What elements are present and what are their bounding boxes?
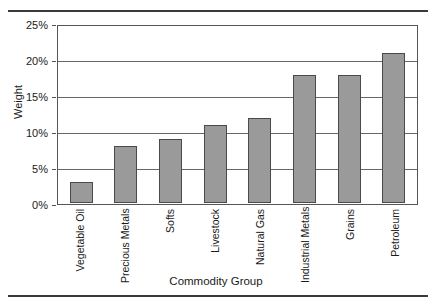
bar[interactable] <box>338 75 361 203</box>
x-tick-slot: Petroleum <box>372 207 417 283</box>
x-axis-tick-label-text: Vegetable Oil <box>75 209 86 283</box>
x-axis-tick-label-text: Grains <box>345 209 356 283</box>
bar[interactable] <box>70 182 93 203</box>
x-tick-slot: Industrial Metals <box>282 207 327 283</box>
bar-slot <box>59 27 104 203</box>
bar-slot <box>371 27 416 203</box>
y-axis-tick-label: 10% <box>26 128 48 139</box>
x-axis-tick-label-text: Softs <box>165 209 176 283</box>
bar-slot <box>148 27 193 203</box>
y-axis-tick-label: 0% <box>32 200 48 211</box>
top-horizontal-rule <box>8 10 428 12</box>
x-tick-slot: Natural Gas <box>238 207 283 283</box>
bar-series <box>59 27 416 203</box>
plot-area <box>57 25 418 205</box>
x-tick-slot: Vegetable Oil <box>58 207 103 283</box>
bar[interactable] <box>159 139 182 203</box>
y-axis-tick-label: 5% <box>32 164 48 175</box>
bar-slot <box>327 27 372 203</box>
bar-slot <box>238 27 283 203</box>
bar[interactable] <box>204 125 227 203</box>
bar[interactable] <box>293 75 316 203</box>
y-axis-tick-mark <box>52 61 56 62</box>
bottom-horizontal-rule <box>8 295 428 297</box>
y-axis-tick-label: 25% <box>26 20 48 31</box>
bar-slot <box>104 27 149 203</box>
x-axis-tick-label-text: Livestock <box>210 209 221 283</box>
x-axis-tick-label-text: Industrial Metals <box>300 209 311 283</box>
y-axis-tick-label: 15% <box>26 92 48 103</box>
x-axis-title-text: Commodity Group <box>169 275 262 287</box>
y-axis-tick-labels: 0%5%10%15%20%25% <box>14 25 52 205</box>
bar[interactable] <box>248 118 271 203</box>
x-axis-tick-label-text: Precious Metals <box>120 209 131 283</box>
y-axis-tick-label: 20% <box>26 56 48 67</box>
x-axis-tick-labels: Vegetable OilPrecious MetalsSoftsLivesto… <box>58 207 417 283</box>
x-tick-slot: Livestock <box>193 207 238 283</box>
y-axis-tick-mark <box>52 25 56 26</box>
bar[interactable] <box>382 53 405 203</box>
y-axis-tick-mark <box>52 133 56 134</box>
x-axis-title: Commodity Group <box>0 275 434 287</box>
x-tick-slot: Softs <box>148 207 193 283</box>
bar-chart-figure: Weight 0%5%10%15%20%25% Vegetable OilPre… <box>0 0 434 306</box>
x-tick-slot: Grains <box>327 207 372 283</box>
bar-slot <box>193 27 238 203</box>
bar-slot <box>282 27 327 203</box>
y-axis-tick-mark <box>52 169 56 170</box>
y-axis-tick-mark <box>52 97 56 98</box>
x-tick-slot: Precious Metals <box>103 207 148 283</box>
bar[interactable] <box>114 146 137 203</box>
x-axis-tick-label-text: Petroleum <box>390 209 401 283</box>
y-axis-tick-mark <box>52 205 56 206</box>
x-axis-tick-label-text: Natural Gas <box>255 209 266 283</box>
